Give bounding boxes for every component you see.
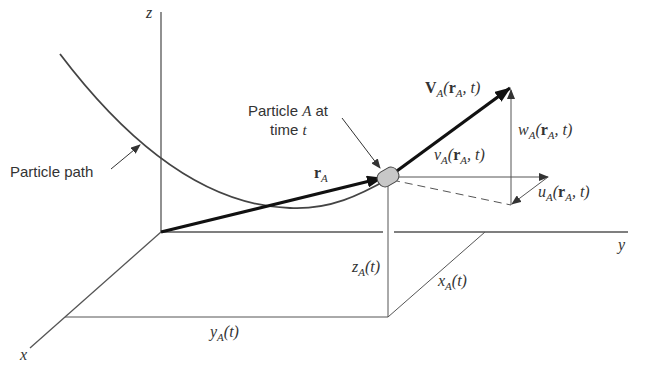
particle-path-label: Particle path <box>10 163 93 180</box>
z-coordinate-label: zA(t) <box>352 258 380 278</box>
x-axis-label: x <box>20 346 27 364</box>
particle-a-label-line2: time t <box>270 121 307 139</box>
x-axis <box>30 232 161 348</box>
y-coordinate-label: yA(t) <box>210 323 239 343</box>
v-component-label: vA(rA, t) <box>434 146 485 166</box>
position-vector <box>161 178 382 232</box>
z-axis-label: z <box>146 4 152 22</box>
w-component-label: wA(rA, t) <box>518 121 572 141</box>
particle-a-label-line1: Particle A at <box>248 102 328 120</box>
position-vector-label: rA <box>314 164 328 184</box>
u-component-label: uA(rA, t) <box>538 183 590 203</box>
horizontal-projection-dashed <box>392 180 511 205</box>
x-coordinate-label: xA(t) <box>438 272 467 292</box>
y-axis-label: y <box>618 236 625 254</box>
particle-path-curve <box>60 54 390 208</box>
velocity-label: VA(rA, t) <box>425 79 480 99</box>
x-projection <box>388 232 485 317</box>
particle-a <box>374 165 401 190</box>
